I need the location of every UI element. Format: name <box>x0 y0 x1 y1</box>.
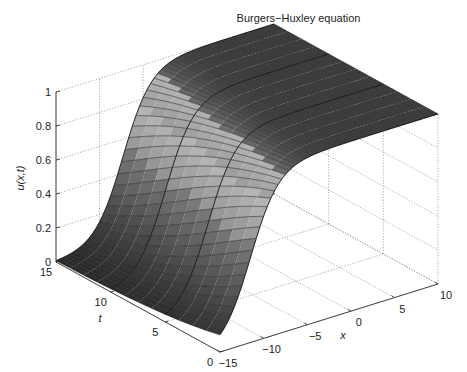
t-tick-label: 10 <box>95 296 107 308</box>
x-tick-label: 5 <box>399 303 405 315</box>
z-axis-label: u(x,t) <box>14 165 26 190</box>
t-tick-label: 5 <box>152 326 158 338</box>
z-tick-label: 0.4 <box>36 188 51 200</box>
surface-mesh <box>56 24 438 335</box>
t-tick-label: 15 <box>40 266 52 278</box>
figure: Burgers−Huxley equation 00.20.40.60.8105… <box>0 0 467 372</box>
x-tick-label: 10 <box>440 289 452 301</box>
z-tick-label: 0.2 <box>36 222 51 234</box>
z-tick-label: 0.6 <box>36 154 51 166</box>
x-tick-label: 0 <box>356 316 362 328</box>
t-axis-label: t <box>98 312 102 324</box>
x-tick-label: −5 <box>309 330 322 342</box>
z-tick-label: 1 <box>45 86 51 98</box>
chart-title: Burgers−Huxley equation <box>0 12 467 24</box>
t-tick-label: 0 <box>207 356 213 368</box>
surface-plot: 00.20.40.60.81051015−15−10−50510 u(x,t) … <box>0 0 467 372</box>
x-tick-label: −10 <box>262 343 281 355</box>
z-tick-label: 0.8 <box>36 120 51 132</box>
x-tick-label: −15 <box>219 357 238 369</box>
x-axis-label: x <box>339 329 346 341</box>
